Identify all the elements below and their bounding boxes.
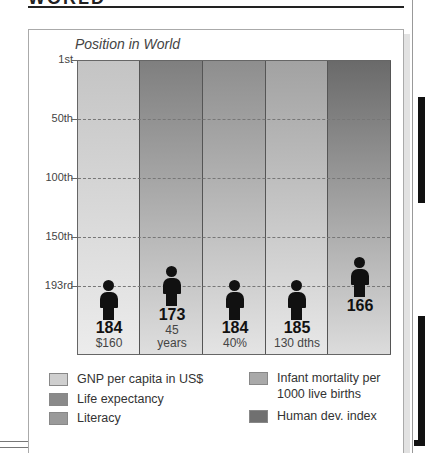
- legend-item-literacy: Literacy: [49, 410, 121, 426]
- legend-swatch: [49, 393, 68, 406]
- legend-swatch: [249, 410, 268, 423]
- rank-value: 185: [266, 319, 328, 337]
- legend-label: Infant mortality per 1000 live births: [277, 370, 381, 402]
- legend-swatch: [249, 372, 268, 385]
- legend-label-line: 1000 live births: [277, 387, 361, 401]
- y-tick-label: 150th: [13, 230, 73, 242]
- legend-swatch: [49, 412, 68, 425]
- adjacent-page-block: [418, 316, 425, 446]
- detail-value: 40%: [204, 337, 266, 350]
- y-tick-label: 193rd: [13, 279, 73, 291]
- adjacent-page-block: [418, 97, 425, 203]
- legend-label-line: Infant mortality per: [277, 371, 381, 385]
- rank-value: 166: [329, 297, 391, 315]
- page-edge-line: [412, 0, 413, 453]
- rank-value: 184: [78, 319, 140, 337]
- chart-title: Position in World: [75, 36, 180, 52]
- adjacent-page-block: [414, 440, 425, 446]
- person-icon: [99, 280, 119, 320]
- person-icon: [350, 257, 370, 297]
- legend-label: Human dev. index: [277, 408, 377, 424]
- y-tick-label: 100th: [13, 171, 73, 183]
- gridline: [78, 237, 390, 238]
- legend-item-gnp: GNP per capita in US$: [49, 371, 203, 387]
- person-icon: [225, 280, 245, 320]
- person-icon: [287, 280, 307, 320]
- plot-area: 184 $160 173 45 years 184 40% 185 130 dt…: [77, 60, 391, 355]
- detail-value: 130 dths: [266, 337, 328, 350]
- legend-swatch: [49, 373, 68, 386]
- legend-item-human-dev-index: Human dev. index: [249, 408, 377, 424]
- heading-rule: [28, 6, 404, 8]
- y-tick-label: 1st: [13, 53, 73, 65]
- gridline: [78, 178, 390, 179]
- detail-value: $160: [78, 337, 140, 350]
- legend-item-life-expectancy: Life expectancy: [49, 391, 164, 407]
- rank-value: 173: [141, 306, 203, 324]
- gridline: [78, 119, 390, 120]
- legend-label: Life expectancy: [77, 391, 164, 407]
- panel-shadow: [404, 34, 410, 453]
- legend-item-infant-mortality: Infant mortality per 1000 live births: [249, 370, 381, 402]
- person-icon: [162, 266, 182, 306]
- detail-unit: years: [141, 337, 203, 350]
- legend-label: GNP per capita in US$: [77, 371, 203, 387]
- legend-label: Literacy: [77, 410, 121, 426]
- y-tick-label: 50th: [13, 112, 73, 124]
- rank-value: 184: [204, 319, 266, 337]
